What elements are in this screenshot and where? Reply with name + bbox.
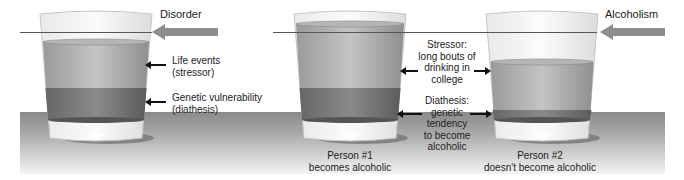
arrow-left-icon: [405, 70, 418, 72]
person-2-caption: Person #2 doesn't become alcoholic: [465, 150, 615, 173]
glass-generic: [38, 10, 154, 144]
arrow-left-icon: [402, 113, 422, 115]
diathesis-label: Diathesis: genetic tendency to become al…: [412, 95, 482, 153]
glass-person-1: [292, 10, 408, 144]
arrow-right-icon: [474, 70, 486, 72]
person-1-caption: Person #1 becomes alcoholic: [295, 150, 405, 173]
alcoholism-threshold-line: [273, 32, 597, 33]
arrow-left-icon: [612, 28, 665, 36]
disorder-label: Disorder: [160, 9, 202, 21]
glass-person-2: [484, 10, 600, 144]
arrow-left-icon: [150, 64, 166, 66]
arrow-left-icon: [150, 101, 166, 103]
stressor-label: Stressor: long bouts of drinking in coll…: [412, 39, 482, 85]
genetic-vulnerability-label: Genetic vulnerability (diathesis): [172, 92, 262, 115]
life-events-label: Life events (stressor): [172, 55, 220, 78]
arrow-right-icon: [470, 113, 487, 115]
alcoholism-label: Alcoholism: [605, 9, 658, 21]
disorder-threshold-line: [20, 32, 152, 33]
arrow-left-icon: [164, 28, 218, 36]
